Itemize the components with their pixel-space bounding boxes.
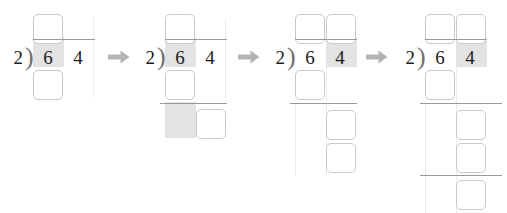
vinculum-rule (165, 39, 227, 40)
division-panel-step-1: 2 ) 6 4 (0, 0, 112, 213)
vinculum-rule (295, 39, 357, 40)
work-box-multiply-tens[interactable] (295, 70, 325, 100)
division-bracket-icon: ) (287, 44, 296, 70)
subtraction-rule-1 (420, 103, 502, 104)
dividend-digit-ones: 4 (326, 48, 354, 67)
column-guide-right (93, 18, 94, 98)
work-box-bring-down[interactable] (196, 109, 226, 139)
dividend-digit-tens: 6 (166, 48, 194, 67)
work-box-bring-down[interactable] (326, 110, 356, 140)
division-panel-step-3: 2 ) 6 4 (262, 0, 374, 213)
subtraction-rule-1 (160, 103, 227, 104)
dividend-digit-tens: 6 (426, 48, 454, 67)
vinculum-rule (425, 39, 487, 40)
division-bracket-icon: ) (25, 44, 34, 70)
long-division-step-sequence: 2 ) 6 4 2 ) 6 4 (0, 0, 507, 213)
dividend-digit-ones: 4 (64, 48, 92, 67)
division-bracket-icon: ) (417, 44, 426, 70)
dividend-digit-ones: 4 (456, 48, 484, 67)
arrow-step-2-to-3 (238, 50, 260, 64)
column-guide-right (225, 18, 226, 98)
work-box-multiply-ones[interactable] (326, 143, 356, 173)
division-panel-step-4: 2 ) 6 4 (392, 0, 504, 213)
work-box-multiply-tens[interactable] (165, 70, 195, 100)
division-bracket-icon: ) (157, 44, 166, 70)
column-highlight-work (165, 102, 196, 138)
divisor-digit: 2 (397, 48, 415, 67)
column-guide-left (425, 103, 426, 213)
column-guide-left (295, 103, 296, 176)
dividend-digit-tens: 6 (34, 48, 62, 67)
dividend-digit-tens: 6 (296, 48, 324, 67)
arrow-step-1-to-2 (108, 50, 130, 64)
vinculum-rule (33, 39, 95, 40)
divisor-digit: 2 (137, 48, 155, 67)
dividend-digit-ones: 4 (196, 48, 224, 67)
arrow-step-3-to-4 (366, 50, 388, 64)
work-box-multiply-tens[interactable] (425, 70, 455, 100)
subtraction-rule-1 (290, 103, 357, 104)
work-box-remainder[interactable] (456, 180, 486, 210)
divisor-digit: 2 (267, 48, 285, 67)
divisor-digit: 2 (5, 48, 23, 67)
division-panel-step-2: 2 ) 6 4 (132, 0, 244, 213)
work-box-bring-down[interactable] (456, 110, 486, 140)
work-box-multiply-tens[interactable] (33, 70, 63, 100)
subtraction-rule-2 (420, 175, 502, 176)
work-box-multiply-ones[interactable] (456, 143, 486, 173)
